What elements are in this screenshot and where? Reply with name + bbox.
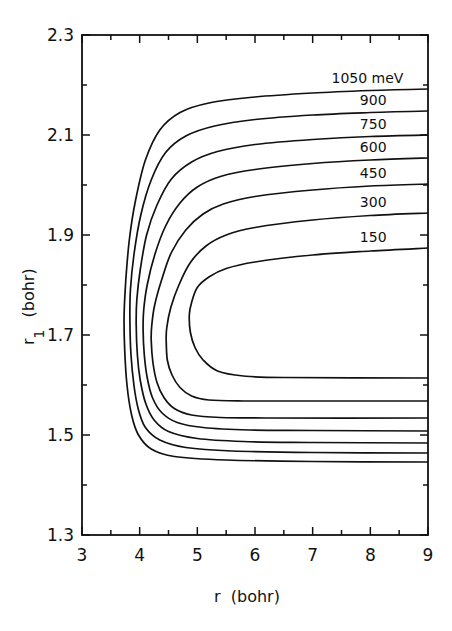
x-axis-tick-labels: 3456789 (77, 545, 434, 565)
contour-chart: 1050 meV900750600450300150 3456789 1.31.… (0, 0, 452, 631)
y-axis-title: r1(bohr) (19, 268, 47, 345)
y-tick-label: 1.9 (47, 225, 74, 245)
contour-label-300: 300 (360, 194, 387, 210)
x-tick-label: 5 (192, 545, 203, 565)
x-tick-label: 4 (134, 545, 145, 565)
x-tick-label: 3 (77, 545, 88, 565)
y-tick-label: 1.5 (47, 425, 74, 445)
contour-300 (166, 213, 428, 401)
contour-label-450: 450 (360, 165, 387, 181)
y-tick-label: 2.1 (47, 125, 74, 145)
svg-text:r1(bohr): r1(bohr) (19, 268, 47, 345)
contour-750 (136, 135, 428, 443)
contour-label-1050: 1050 meV (331, 70, 403, 86)
contour-labels: 1050 meV900750600450300150 (331, 70, 403, 245)
contour-label-600: 600 (360, 139, 387, 155)
contour-label-750: 750 (360, 116, 387, 132)
y-axis-title-unit: (bohr) (19, 268, 38, 317)
x-tick-label: 8 (365, 545, 376, 565)
y-tick-label: 1.3 (47, 525, 74, 545)
y-axis-title-subscript: 1 (31, 330, 47, 339)
contour-label-900: 900 (360, 92, 387, 108)
y-axis-tick-labels: 1.31.51.71.92.12.3 (47, 25, 74, 545)
y-tick-label: 1.7 (47, 325, 74, 345)
contour-150 (189, 248, 428, 378)
x-tick-label: 7 (307, 545, 318, 565)
x-axis-title: r (bohr) (214, 587, 280, 606)
y-tick-label: 2.3 (47, 25, 74, 45)
x-tick-label: 9 (423, 545, 434, 565)
contour-label-150: 150 (360, 229, 387, 245)
x-tick-label: 6 (250, 545, 261, 565)
